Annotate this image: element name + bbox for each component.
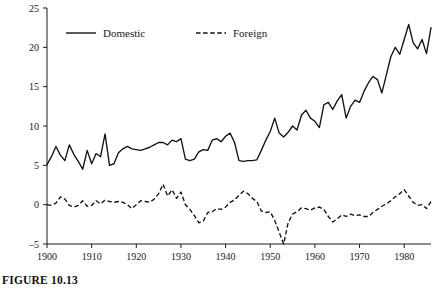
x-tick-label: 1900 (37, 251, 57, 262)
y-tick-label: 20 (29, 42, 39, 53)
y-tick-label: 10 (29, 121, 39, 132)
y-tick-label: 0 (34, 199, 39, 210)
y-tick-label: 15 (29, 81, 39, 92)
x-tick-label: 1950 (260, 251, 280, 262)
figure-container: –50510152025 190019101920193019401950196… (0, 0, 440, 293)
x-tick-label: 1980 (394, 251, 414, 262)
x-tick-label: 1910 (82, 251, 102, 262)
x-tick-label: 1930 (171, 251, 191, 262)
investment-share-line-chart: –50510152025 190019101920193019401950196… (0, 0, 440, 293)
figure-caption: FIGURE 10.13 (2, 274, 78, 286)
y-tick-label: 25 (29, 3, 39, 14)
x-tick-label: 1940 (216, 251, 236, 262)
series-line-foreign (47, 184, 431, 244)
legend-label-foreign: Foreign (233, 27, 268, 39)
legend-label-domestic: Domestic (103, 27, 145, 39)
x-tick-label: 1970 (350, 251, 370, 262)
y-tick-label: –5 (28, 239, 39, 250)
series-line-domestic (47, 25, 431, 170)
x-axis-ticks: 190019101920193019401950196019701980 (37, 244, 414, 262)
x-tick-label: 1960 (305, 251, 325, 262)
y-axis-ticks: –50510152025 (28, 3, 47, 250)
x-tick-label: 1920 (126, 251, 146, 262)
chart-legend: DomesticForeign (66, 27, 268, 39)
y-tick-label: 5 (34, 160, 39, 171)
